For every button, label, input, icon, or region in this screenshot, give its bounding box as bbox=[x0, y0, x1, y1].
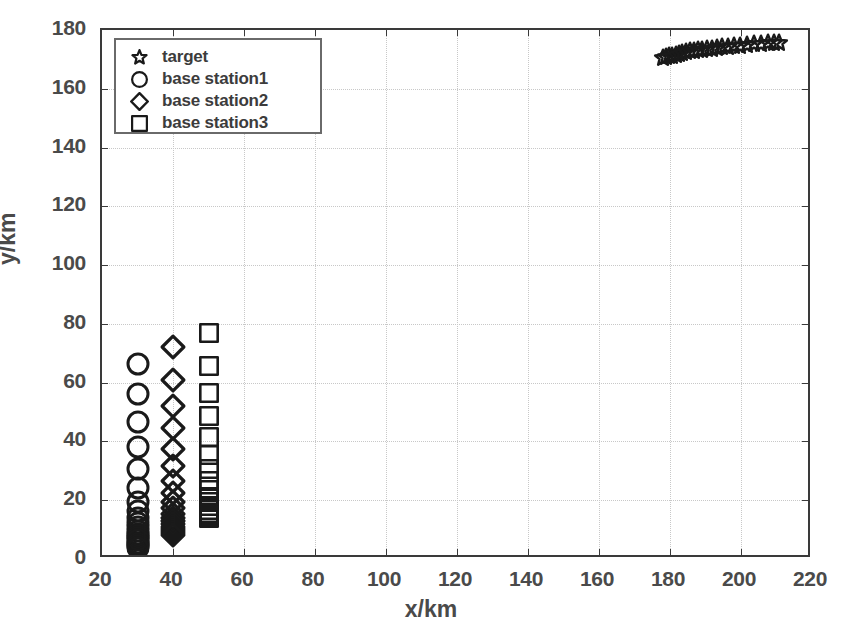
data-point-base-station2 bbox=[161, 335, 186, 360]
data-point-target bbox=[702, 39, 721, 58]
data-point-base-station2 bbox=[161, 512, 186, 537]
data-point-base-station2 bbox=[161, 489, 186, 514]
x-tick-label: 160 bbox=[580, 567, 614, 591]
x-axis-tick bbox=[528, 549, 529, 556]
y-tick-label: 40 bbox=[0, 427, 86, 451]
y-tick-label: 140 bbox=[0, 134, 86, 158]
data-point-base-station2 bbox=[161, 469, 186, 494]
data-point-base-station1 bbox=[126, 536, 149, 555]
data-point-base-station2 bbox=[161, 521, 186, 546]
square-icon bbox=[116, 115, 162, 132]
data-point-target bbox=[684, 41, 703, 60]
x-tick-label: 40 bbox=[160, 567, 183, 591]
legend-box: target base station1 base station2 base … bbox=[114, 38, 322, 134]
legend-item-base-station2[interactable]: base station2 bbox=[116, 90, 320, 112]
data-point-base-station2 bbox=[161, 436, 186, 461]
data-point-base-station1 bbox=[126, 499, 149, 522]
data-point-target bbox=[680, 42, 699, 61]
x-axis-tick-top bbox=[670, 29, 671, 36]
y-axis-tick-right bbox=[802, 383, 809, 384]
x-axis-tick-top bbox=[457, 29, 458, 36]
data-point-target bbox=[676, 43, 695, 62]
y-tick-label: 20 bbox=[0, 486, 86, 510]
y-axis-tick-right bbox=[802, 206, 809, 207]
data-point-base-station1 bbox=[126, 527, 149, 550]
data-point-base-station2 bbox=[161, 480, 186, 505]
data-point-base-station3 bbox=[199, 383, 219, 403]
data-point-base-station2 bbox=[161, 496, 186, 521]
x-tick-label: 20 bbox=[89, 567, 112, 591]
y-axis-tick bbox=[101, 206, 108, 207]
x-tick-label: 180 bbox=[651, 567, 685, 591]
data-point-base-station1 bbox=[126, 522, 149, 545]
data-point-base-station3 bbox=[199, 480, 219, 500]
data-point-base-station2 bbox=[161, 509, 186, 534]
data-point-base-station1 bbox=[126, 529, 149, 552]
data-point-base-station3 bbox=[199, 505, 219, 525]
x-tick-label: 80 bbox=[302, 567, 325, 591]
data-point-target bbox=[653, 49, 672, 68]
data-point-base-station1 bbox=[126, 519, 149, 542]
data-point-base-station3 bbox=[199, 500, 219, 520]
legend-item-target[interactable]: target bbox=[116, 46, 320, 68]
x-tick-label: 100 bbox=[367, 567, 401, 591]
data-point-base-station2 bbox=[161, 514, 186, 539]
star-icon bbox=[116, 49, 162, 66]
data-point-target bbox=[718, 37, 737, 56]
data-point-base-station2 bbox=[161, 519, 186, 544]
data-point-base-station3 bbox=[199, 507, 219, 527]
x-axis-tick-top bbox=[173, 29, 174, 36]
data-point-base-station3 bbox=[199, 459, 219, 479]
y-tick-label: 100 bbox=[0, 251, 86, 275]
data-point-target bbox=[663, 46, 682, 65]
data-point-base-station3 bbox=[199, 487, 219, 507]
data-point-base-station2 bbox=[161, 416, 186, 441]
data-point-target bbox=[693, 40, 712, 59]
data-point-target bbox=[738, 35, 757, 54]
data-point-target bbox=[770, 33, 789, 52]
data-point-base-station1 bbox=[126, 436, 149, 459]
data-point-base-station3 bbox=[199, 492, 219, 512]
y-axis-tick-right bbox=[802, 89, 809, 90]
data-point-target bbox=[697, 40, 716, 59]
y-tick-label: 160 bbox=[0, 75, 86, 99]
legend-item-base-station1[interactable]: base station1 bbox=[116, 68, 320, 90]
data-point-target bbox=[751, 34, 770, 53]
x-axis-tick bbox=[599, 549, 600, 556]
data-point-target bbox=[673, 43, 692, 62]
y-axis-tick bbox=[101, 148, 108, 149]
y-axis-tick bbox=[101, 383, 108, 384]
x-axis-tick bbox=[244, 549, 245, 556]
legend-item-base-station3[interactable]: base station3 bbox=[116, 112, 320, 134]
x-tick-label: 60 bbox=[231, 567, 254, 591]
data-point-base-station3 bbox=[199, 503, 219, 523]
data-point-target bbox=[660, 47, 679, 66]
y-tick-label: 80 bbox=[0, 310, 86, 334]
y-axis-tick-right bbox=[802, 324, 809, 325]
data-point-target bbox=[666, 45, 685, 64]
y-tick-label: 60 bbox=[0, 369, 86, 393]
data-point-base-station2 bbox=[161, 367, 186, 392]
y-tick-label: 0 bbox=[0, 545, 86, 569]
x-axis-tick-top bbox=[315, 29, 316, 36]
circle-icon bbox=[116, 71, 162, 88]
data-point-target bbox=[744, 35, 763, 54]
data-point-base-station2 bbox=[161, 517, 186, 542]
y-axis-tick bbox=[101, 500, 108, 501]
x-axis-tick bbox=[173, 549, 174, 556]
data-point-base-station3 bbox=[199, 496, 219, 516]
x-axis-tick-top bbox=[244, 29, 245, 36]
x-axis-tick bbox=[741, 549, 742, 556]
x-tick-label: 200 bbox=[722, 567, 756, 591]
x-axis-tick-top bbox=[528, 29, 529, 36]
data-point-target bbox=[765, 33, 784, 52]
x-axis-tick bbox=[386, 549, 387, 556]
data-point-base-station1 bbox=[126, 531, 149, 554]
y-axis-tick bbox=[101, 265, 108, 266]
x-axis-tick-top bbox=[741, 29, 742, 36]
x-axis-tick bbox=[315, 549, 316, 556]
data-point-base-station1 bbox=[126, 490, 149, 513]
legend-label: target bbox=[162, 47, 208, 67]
data-point-base-station3 bbox=[199, 508, 219, 528]
data-point-base-station1 bbox=[126, 512, 149, 535]
